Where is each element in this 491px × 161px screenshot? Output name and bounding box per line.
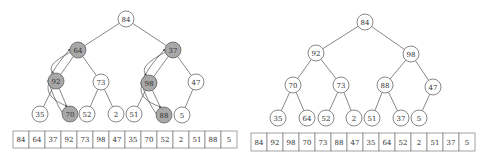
node-value: 84 [361, 19, 370, 27]
array-cell-value: 37 [447, 139, 456, 147]
node-value: 70 [66, 111, 75, 119]
heap-node: 2 [108, 106, 124, 122]
array-cell-value: 70 [145, 136, 154, 144]
array-cell-value: 98 [97, 136, 106, 144]
node-value: 35 [274, 115, 283, 123]
heap-node: 73 [93, 74, 109, 90]
node-value: 84 [122, 16, 131, 24]
array-cell-value: 64 [383, 139, 392, 147]
heap-node: 35 [270, 110, 286, 126]
tree-edge [104, 89, 112, 107]
heap-node: 88 [156, 107, 172, 123]
heap-node: 37 [165, 42, 181, 58]
array-cell-value: 88 [209, 136, 218, 144]
heap-node: 84 [118, 11, 134, 27]
node-value: 64 [303, 115, 312, 123]
node-value: 5 [180, 112, 184, 120]
heap-node: 98 [403, 46, 419, 62]
heap-node: 47 [188, 74, 204, 90]
node-value: 88 [381, 82, 390, 90]
heap-array: 84643792739847357052251885 [13, 131, 237, 148]
heap-node: 47 [425, 79, 441, 95]
heap-node: 5 [174, 107, 190, 123]
array-cell-value: 37 [49, 136, 58, 144]
array-cell-value: 52 [399, 139, 408, 147]
array-cell-value: 88 [335, 139, 344, 147]
heap-node: 52 [318, 110, 334, 126]
tree-edge [344, 92, 351, 110]
array-cell-value: 84 [255, 139, 264, 147]
array-cell-value: 92 [271, 139, 280, 147]
tree-edge [372, 27, 405, 50]
array-cell-value: 70 [303, 139, 312, 147]
node-value: 98 [407, 51, 416, 59]
tree-edge [298, 59, 312, 78]
tree-edge [390, 60, 406, 79]
tree-edge [323, 26, 358, 48]
heap-node: 51 [126, 106, 142, 122]
node-value: 52 [322, 115, 331, 123]
heap-node: 70 [62, 106, 78, 122]
node-value: 73 [337, 82, 346, 90]
node-value: 37 [169, 47, 178, 55]
array-cell-value: 47 [351, 139, 360, 147]
array-cell-value: 64 [33, 136, 42, 144]
heap-node: 70 [285, 77, 301, 93]
heap-node: 98 [141, 75, 157, 91]
node-value: 51 [130, 111, 139, 119]
array-cell-value: 35 [367, 139, 376, 147]
tree-edge [281, 92, 289, 110]
node-value: 47 [192, 79, 201, 87]
array-cell-value: 84 [17, 136, 26, 144]
tree-edge [185, 89, 193, 107]
heap-diagram: 8464379273984735705225188584643792739847… [0, 0, 491, 161]
array-cell-value: 2 [417, 139, 421, 147]
tree-edge [61, 57, 74, 75]
swap-arrow-down-icon [144, 52, 166, 75]
heap-node: 37 [393, 110, 409, 126]
tree-edge [321, 59, 336, 78]
heap-node: 92 [308, 45, 324, 61]
array-cell-value: 73 [319, 139, 328, 147]
node-value: 88 [160, 112, 169, 120]
array-cell-value: 2 [179, 136, 183, 144]
array-cell-value: 51 [431, 139, 440, 147]
tree-edge [43, 88, 52, 107]
node-value: 73 [97, 79, 106, 87]
heap-node: 52 [79, 106, 95, 122]
tree-edge [90, 89, 98, 106]
node-value: 47 [429, 84, 438, 92]
tree-edge [178, 56, 192, 75]
tree-edge [83, 56, 97, 75]
array-cell-value: 35 [129, 136, 138, 144]
array-cell-value: 98 [287, 139, 296, 147]
node-value: 92 [312, 50, 321, 58]
heap-node: 5 [411, 110, 427, 126]
node-value: 92 [52, 78, 61, 86]
heap-node: 64 [299, 110, 315, 126]
heap-node: 35 [32, 106, 48, 122]
tree-edge [133, 23, 167, 45]
array-cell-value: 47 [113, 136, 122, 144]
tree-edge [85, 23, 120, 45]
node-value: 5 [417, 115, 421, 123]
heap-node: 88 [377, 77, 393, 93]
node-value: 98 [145, 80, 154, 88]
array-cell-value: 5 [465, 139, 469, 147]
node-value: 2 [114, 111, 118, 119]
array-cell-value: 52 [161, 136, 170, 144]
tree-edge [59, 88, 67, 106]
node-value: 52 [83, 111, 92, 119]
heap-node: 73 [333, 77, 349, 93]
left-heap-before: 8464379273984735705225188584643792739847… [13, 11, 237, 148]
heap-node: 51 [364, 110, 380, 126]
array-cell-value: 73 [81, 136, 90, 144]
tree-edge [329, 92, 337, 110]
heap-node: 92 [48, 73, 64, 89]
array-cell-value: 5 [227, 136, 231, 144]
node-value: 70 [289, 82, 298, 90]
tree-edge [422, 94, 429, 110]
heap-node: 2 [346, 110, 362, 126]
node-value: 64 [74, 47, 83, 55]
tree-edge [415, 61, 428, 81]
